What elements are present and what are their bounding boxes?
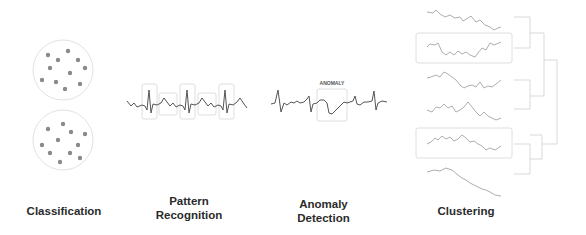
pattern-label-line2: Recognition — [120, 208, 258, 222]
clustering-panel: Clustering — [400, 0, 586, 235]
anomaly-label-line1: Anomaly — [260, 197, 387, 211]
class-circle-top — [33, 40, 93, 170]
anomaly-box — [317, 89, 347, 121]
time-series-lines — [427, 10, 501, 196]
cluster-boxes — [416, 33, 512, 158]
classification-panel: Classification — [0, 0, 130, 235]
classification-illustration — [0, 0, 130, 235]
pattern-label-line1: Pattern — [120, 194, 258, 208]
clustering-illustration — [400, 0, 586, 235]
ecg-signal — [127, 90, 247, 113]
class-dots-top — [40, 49, 87, 91]
anomaly-label: Anomaly Detection — [260, 197, 387, 225]
class-dots-bottom — [40, 122, 87, 164]
classification-label: Classification — [0, 204, 128, 218]
clustering-label: Clustering — [400, 204, 532, 218]
anomaly-detection-panel: ANOMALY Anomaly Detection — [260, 0, 400, 235]
anomaly-annotation: ANOMALY — [320, 80, 345, 86]
dendrogram — [514, 17, 557, 174]
anomaly-label-line2: Detection — [260, 211, 387, 225]
anomaly-signal — [271, 90, 387, 114]
pattern-label: Pattern Recognition — [120, 194, 258, 222]
pattern-recognition-panel: Pattern Recognition — [120, 0, 270, 235]
